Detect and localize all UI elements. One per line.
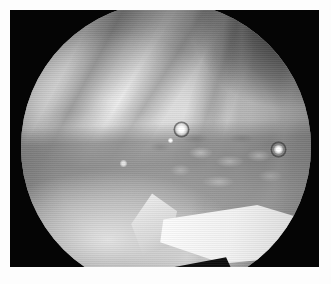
instrument-wedge <box>160 205 311 267</box>
image-canvas <box>0 0 331 284</box>
highlight-right-ring <box>272 143 285 156</box>
highlight-left <box>120 160 127 167</box>
endoscope-letterbox-frame <box>10 10 319 267</box>
circular-field-of-view <box>21 10 311 267</box>
highlight-center-ring <box>175 123 188 136</box>
highlight-center-small <box>168 138 173 143</box>
